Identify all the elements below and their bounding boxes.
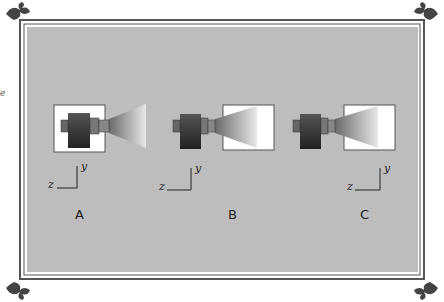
axis-z-label-c: z [347,180,353,193]
axis-z-label-a: z [48,178,54,191]
axes-a [57,166,77,188]
axis-y-label-a: y [81,160,87,173]
axis-z-label-b: z [159,180,165,193]
axis-y-label-b: y [195,162,201,175]
panel-b-diagram [173,105,274,150]
axis-y-label-c: y [384,162,390,175]
panel-label-a: A [75,207,84,222]
axes-b [167,168,191,190]
panel-a-diagram [54,104,146,152]
panel-c-diagram [293,105,395,150]
panel-label-c: C [360,207,369,222]
axes-c [355,168,380,190]
panel-label-b: B [228,207,237,222]
camera-diagrams [0,0,444,302]
